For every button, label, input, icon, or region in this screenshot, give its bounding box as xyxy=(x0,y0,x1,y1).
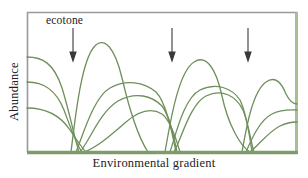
zone-4-curves xyxy=(242,80,297,152)
species-curve-8 xyxy=(165,60,250,152)
plot-frame-left-top xyxy=(28,13,298,153)
species-curve-12 xyxy=(246,110,297,152)
ecotone-figure: ecotone Abundance Environmental gradient xyxy=(0,0,308,178)
species-curve-10 xyxy=(174,93,254,152)
zone-2-curves xyxy=(71,43,180,152)
x-axis-label: Environmental gradient xyxy=(0,156,308,171)
species-curve-2 xyxy=(27,82,82,152)
ecotone-annotation-label: ecotone xyxy=(46,14,83,26)
ecotone-arrow-3 xyxy=(245,28,251,61)
y-axis-label: Abundance xyxy=(7,44,22,140)
abundance-curves-plot xyxy=(0,0,308,178)
species-curve-1 xyxy=(27,57,79,152)
ecotone-arrow-2 xyxy=(169,28,175,61)
ecotone-arrow-1 xyxy=(70,28,76,61)
species-curve-13 xyxy=(250,122,297,152)
zone-3-curves xyxy=(165,60,254,152)
